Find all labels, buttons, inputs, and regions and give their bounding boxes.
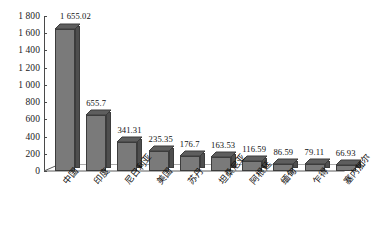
bar-front-face [117, 142, 137, 171]
y-axis-tick-mark [44, 171, 47, 172]
bar-front-face [86, 115, 106, 171]
bar-value-label: 116.59 [242, 145, 266, 154]
bar-top-face [86, 109, 113, 116]
bar-top-face [180, 150, 207, 157]
bar-column[interactable] [180, 148, 200, 171]
bar-column[interactable] [273, 156, 293, 171]
bar-column[interactable] [211, 149, 231, 171]
chart-caption [0, 218, 380, 228]
bar-front-face [149, 151, 169, 171]
bar-value-label: 176.7 [180, 140, 200, 149]
y-axis-tick-mark [44, 16, 47, 17]
bar-top-face [55, 23, 82, 30]
bar-side-face [75, 26, 80, 169]
y-axis-tick-mark [44, 102, 47, 103]
y-axis-tick-label: 1 200 [0, 63, 40, 73]
y-axis-tick-label: 1 600 [0, 28, 40, 38]
y-axis-tick-label: 1 400 [0, 45, 40, 55]
bar-side-face [106, 112, 111, 168]
bar-column[interactable] [86, 107, 106, 171]
y-axis-tick-mark [44, 119, 47, 120]
y-axis-tick-mark [44, 85, 47, 86]
bar-top-face [211, 151, 238, 158]
bar-column[interactable] [242, 153, 262, 171]
y-axis-tick-label: 0 [0, 166, 40, 176]
bar-column[interactable] [149, 143, 169, 171]
bar-value-label: 1 655.02 [60, 12, 91, 21]
bar-value-label: 86.59 [273, 148, 293, 157]
y-axis-tick-mark [44, 154, 47, 155]
y-axis-tick-label: 600 [0, 114, 40, 124]
bar-front-face [55, 29, 75, 172]
bar-column[interactable] [305, 156, 325, 171]
bar-column[interactable] [336, 157, 356, 171]
y-axis-tick-mark [44, 33, 47, 34]
y-axis-tick-label: 200 [0, 149, 40, 159]
bar-top-face [149, 145, 176, 152]
bar-value-label: 341.31 [117, 126, 141, 135]
bar-column[interactable] [55, 21, 75, 172]
bar-column[interactable] [117, 134, 137, 171]
y-axis-tick-mark [44, 68, 47, 69]
bar-front-face [211, 157, 231, 171]
y-axis-tick-label: 1 000 [0, 80, 40, 90]
y-axis-tick-mark [44, 50, 47, 51]
bar-top-face [242, 155, 269, 162]
bar-value-label: 79.11 [305, 148, 325, 157]
bar-top-face [273, 158, 300, 165]
bar-front-face [180, 156, 200, 171]
bar-side-face [137, 139, 142, 168]
y-axis-tick-label: 800 [0, 97, 40, 107]
y-axis-tick-label: 400 [0, 132, 40, 142]
bar-value-label: 66.93 [336, 149, 356, 158]
bar-value-label: 655.7 [86, 99, 106, 108]
y-axis-tick-mark [44, 137, 47, 138]
bar-value-label: 235.35 [149, 135, 173, 144]
y-axis-tick-label: 1 800 [0, 11, 40, 21]
bar-front-face [273, 164, 293, 171]
y-axis-tick-labels: 1 8001 6001 4001 2001 0008006004002000 [0, 10, 40, 178]
bar-top-face [305, 158, 332, 165]
bar-front-face [242, 161, 262, 171]
bar-top-face [117, 136, 144, 143]
bar-front-face [305, 164, 325, 171]
bar-top-face [336, 159, 363, 166]
bar-chart-figure: 1 8001 6001 4001 2001 0008006004002000 中… [0, 0, 380, 228]
bar-value-label: 163.53 [211, 141, 235, 150]
